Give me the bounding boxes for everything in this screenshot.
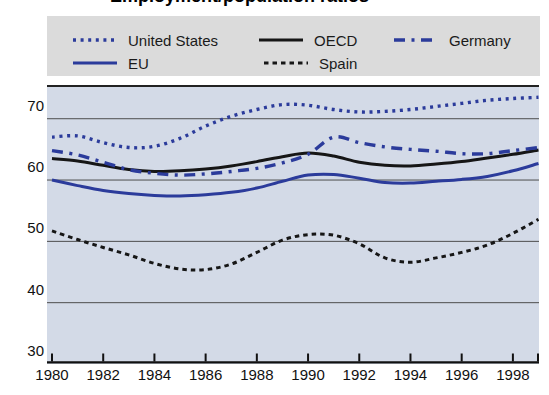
plot-area <box>47 85 539 364</box>
x-tick-label-1986: 1986 <box>184 367 228 383</box>
y-tick-label-40: 40 <box>6 282 44 298</box>
legend-label-oecd: OECD <box>314 32 357 49</box>
legend-item-oecd: OECD <box>258 31 357 49</box>
united-states-line-swatch-icon <box>72 36 118 44</box>
y-tick-label-30: 30 <box>6 343 44 359</box>
series-line-spain <box>52 219 539 270</box>
legend-label-united-states: United States <box>128 32 218 49</box>
x-tick-label-1992: 1992 <box>337 367 381 383</box>
eu-line-swatch-icon <box>72 59 118 67</box>
x-tick-label-1988: 1988 <box>235 367 279 383</box>
legend-label-germany: Germany <box>449 32 511 49</box>
x-tick-label-1984: 1984 <box>132 367 176 383</box>
legend-item-eu: EU <box>72 54 149 72</box>
line-chart <box>47 85 539 364</box>
y-tick-label-60: 60 <box>6 159 44 175</box>
x-tick-label-1994: 1994 <box>388 367 432 383</box>
germany-line-swatch-icon <box>393 36 439 44</box>
series-line-united-states <box>52 97 539 148</box>
y-tick-label-50: 50 <box>6 220 44 236</box>
clipped-page-title: Employment/population ratios <box>0 0 549 8</box>
spain-line-swatch-icon <box>263 59 309 67</box>
x-tick-label-1990: 1990 <box>286 367 330 383</box>
x-tick-label-1980: 1980 <box>30 367 74 383</box>
legend-label-eu: EU <box>128 55 149 72</box>
y-tick-label-70: 70 <box>6 98 44 114</box>
legend-label-spain: Spain <box>319 55 357 72</box>
x-tick-label-1996: 1996 <box>440 367 484 383</box>
legend-item-united-states: United States <box>72 31 218 49</box>
legend-item-spain: Spain <box>263 54 357 72</box>
legend-item-germany: Germany <box>393 31 511 49</box>
chart-legend: United States OECD Germany EU Spain <box>47 16 540 76</box>
clipped-page-title-text: Employment/population ratios <box>110 0 369 7</box>
x-tick-label-1998: 1998 <box>491 367 535 383</box>
x-tick-label-1982: 1982 <box>81 367 125 383</box>
oecd-line-swatch-icon <box>258 36 304 44</box>
